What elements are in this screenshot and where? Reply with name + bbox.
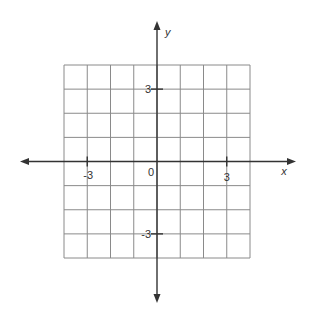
x-tick-label: -3	[83, 169, 93, 181]
coordinate-plane: x y 0 -3 3 3 -3	[0, 0, 311, 325]
y-tick-label: -3	[141, 228, 151, 240]
origin-label: 0	[148, 166, 154, 178]
y-axis-label: y	[164, 26, 172, 38]
axes	[20, 21, 296, 303]
x-axis-right-arrow-icon	[287, 158, 296, 165]
labels: x y 0 -3 3 3 -3	[83, 26, 287, 240]
y-tick-label: 3	[145, 83, 151, 95]
x-axis-label: x	[280, 165, 287, 177]
x-axis-left-arrow-icon	[20, 158, 29, 165]
x-tick-label: 3	[224, 171, 230, 183]
y-axis-up-arrow-icon	[154, 21, 161, 30]
y-axis-down-arrow-icon	[154, 294, 161, 303]
